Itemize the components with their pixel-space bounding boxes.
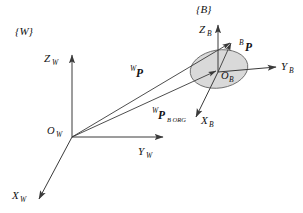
svg-text:P: P [245, 41, 253, 53]
world-frame-label: {W} [15, 25, 34, 37]
svg-text:Y: Y [281, 60, 289, 72]
svg-text:X: X [200, 114, 209, 126]
svg-text:B: B [207, 29, 212, 38]
svg-text:O: O [221, 70, 229, 81]
svg-text:X: X [11, 189, 20, 201]
svg-text:O: O [47, 125, 55, 136]
figure-canvas: {W} O W Z W Y W X W [0, 0, 303, 213]
body-position-vector-label: B P [239, 38, 253, 53]
svg-text:Z: Z [44, 52, 51, 64]
x-axis-world-label: X W [11, 189, 27, 204]
svg-text:Z: Z [199, 23, 206, 35]
y-axis-body-label: Y B [281, 60, 294, 75]
svg-text:B: B [209, 120, 214, 129]
svg-text:Y: Y [138, 145, 146, 157]
y-axis-world-label: Y W [138, 145, 153, 160]
z-axis-world-label: Z W [44, 52, 59, 67]
coordinate-frames-diagram: {W} O W Z W Y W X W [0, 0, 303, 213]
svg-text:P: P [136, 67, 144, 79]
svg-text:B: B [289, 66, 294, 75]
body-frame-label: {B} [196, 3, 212, 15]
svg-text:W: W [52, 58, 59, 67]
svg-text:B: B [239, 38, 244, 47]
x-axis-world-line [39, 137, 72, 199]
svg-text:B ORG: B ORG [167, 116, 186, 123]
body-origin-vector-label: W P B ORG [152, 106, 186, 123]
world-origin-label: O W [47, 125, 63, 139]
world-position-vector-label: W P [130, 64, 144, 79]
svg-text:B: B [229, 75, 234, 84]
body-origin-vector-arrow [72, 71, 216, 137]
svg-text:W: W [56, 130, 63, 139]
svg-text:W: W [146, 151, 153, 160]
x-axis-body-label: X B [200, 114, 214, 129]
svg-text:P: P [158, 109, 166, 121]
world-frame-group: {W} O W Z W Y W X W [11, 25, 163, 204]
z-axis-body-label: Z B [199, 23, 212, 38]
svg-text:W: W [20, 195, 27, 204]
